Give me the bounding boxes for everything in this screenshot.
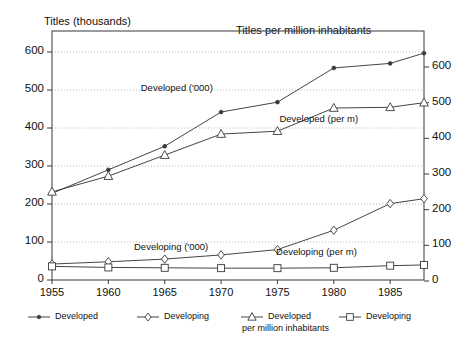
right-tick-label: 0 [432, 273, 438, 285]
right-tick-label: 400 [432, 130, 451, 142]
left-tick-label: 600 [25, 44, 44, 56]
series-0 [50, 51, 426, 195]
legend-item-3 [339, 314, 361, 321]
series-annotation: Developed (per m) [279, 113, 358, 124]
series-annotation: Developing (per m) [276, 246, 357, 257]
x-tick-label: 1970 [201, 286, 241, 298]
series-annotation: Developing ('000) [134, 241, 208, 252]
right-tick-label: 300 [432, 166, 451, 178]
chart-canvas: Titles (thousands) Titles per million in… [0, 0, 468, 358]
legend-item-1 [137, 313, 159, 321]
right-tick-label: 500 [432, 95, 451, 107]
legend-label: Developing [366, 311, 411, 321]
right-tick-label: 200 [432, 202, 451, 214]
x-tick-label: 1980 [314, 286, 354, 298]
x-tick-label: 1965 [145, 286, 185, 298]
x-tick-label: 1955 [32, 286, 72, 298]
x-tick-label: 1975 [257, 286, 297, 298]
left-tick-label: 300 [25, 158, 44, 170]
left-tick-label: 200 [25, 196, 44, 208]
x-tick-label: 1985 [370, 286, 410, 298]
legend-label-second-line: per million inhabitants [242, 323, 329, 333]
series-2 [48, 98, 429, 195]
legend-label: Developing [164, 311, 209, 321]
plot-area [0, 0, 468, 358]
series-1 [49, 194, 428, 268]
x-tick-label: 1960 [88, 286, 128, 298]
left-tick-label: 0 [38, 272, 44, 284]
series-3 [49, 261, 428, 271]
legend-item-2 [241, 313, 263, 321]
legend-item-0 [28, 315, 50, 319]
left-tick-label: 400 [25, 120, 44, 132]
legend-label: Developed [55, 311, 98, 321]
legend-label: Developed [268, 311, 311, 321]
series-annotation: Developed ('000) [141, 82, 213, 93]
legend: DevelopedDevelopingDevelopedper million … [24, 306, 444, 350]
right-tick-label: 600 [432, 59, 451, 71]
right-tick-label: 100 [432, 237, 451, 249]
left-tick-label: 100 [25, 234, 44, 246]
left-tick-label: 500 [25, 82, 44, 94]
